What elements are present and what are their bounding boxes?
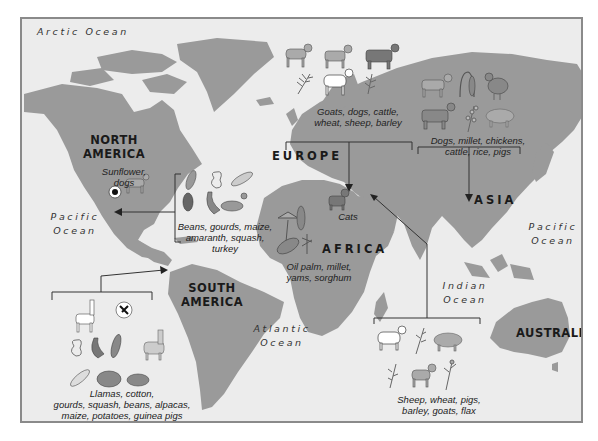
- caption-line: Dogs, millet, chickens,: [418, 135, 538, 146]
- wheat-icon: [297, 74, 313, 94]
- caption-fertile-crescent: Sheep, wheat, pigs, barley, goats, flax: [384, 394, 494, 416]
- caption-south-america: Llamas, cotton, gourds, squash, beans, a…: [42, 388, 202, 421]
- cotton-icon: [116, 302, 132, 318]
- caption-line: Sunflower,: [94, 166, 154, 177]
- cattle-icon: [366, 44, 399, 69]
- amaranth-icon: [183, 193, 193, 211]
- gourd-icon: [71, 340, 81, 356]
- alpaca-icon: [144, 330, 164, 360]
- label-atlantic-ocean: Atlantic Ocean: [244, 322, 320, 350]
- caption-line: gourds, squash, beans, alpacas,: [42, 399, 202, 410]
- label-indian-ocean: Indian Ocean: [430, 279, 500, 307]
- potato-icon: [97, 371, 121, 387]
- turkey-icon: [221, 193, 247, 211]
- label-line: SOUTH: [172, 281, 252, 295]
- flax-icon: [444, 360, 456, 390]
- caption-line: dogs: [94, 177, 154, 188]
- barley-icon: [388, 364, 398, 388]
- label-pacific-ocean-east: Pacific Ocean: [518, 220, 583, 248]
- mesoamerica-icons: [183, 169, 254, 214]
- label-asia: ASIA: [474, 193, 516, 207]
- caption-line: Goats, dogs, cattle,: [298, 106, 418, 117]
- label-line: Atlantic: [244, 322, 320, 336]
- south-america-icons: [68, 300, 164, 389]
- caption-line: wheat, sheep, barley: [298, 117, 418, 128]
- squash-icon: [207, 192, 220, 214]
- caption-asia: Dogs, millet, chickens, cattle, rice, pi…: [418, 135, 538, 157]
- label-line: Pacific: [40, 210, 110, 224]
- llama-icon: [76, 300, 94, 332]
- squash-icon: [92, 338, 104, 358]
- label-africa: AFRICA: [322, 242, 387, 256]
- caption-line: barley, goats, flax: [384, 405, 494, 416]
- maize-icon: [230, 170, 255, 189]
- label-line: Ocean: [518, 234, 583, 248]
- world-map: Arctic Ocean Pacific Ocean Atlantic Ocea…: [20, 17, 583, 423]
- caption-line: Beans, gourds, maize,: [170, 221, 280, 232]
- goat-icon: [286, 44, 312, 67]
- label-north-america: NORTH AMERICA: [74, 133, 154, 161]
- caption-line: amaranth, squash,: [170, 232, 280, 243]
- label-line: AMERICA: [172, 295, 252, 309]
- gourd-icon: [211, 172, 221, 188]
- sheep-icon: [378, 326, 406, 350]
- label-arctic-ocean: Arctic Ocean: [37, 25, 129, 39]
- label-south-america: SOUTH AMERICA: [172, 281, 252, 309]
- label-australia: AUSTRALIA: [516, 326, 583, 340]
- guinea-pig-icon: [127, 374, 149, 386]
- caption-north-america: Sunflower, dogs: [94, 166, 154, 188]
- label-line: Indian: [430, 279, 500, 293]
- goat-icon: [412, 364, 436, 387]
- caption-cats: Cats: [328, 211, 368, 222]
- caption-line: Sheep, wheat, pigs,: [384, 394, 494, 405]
- fertile-crescent-icons: [378, 326, 462, 390]
- wheat-icon: [416, 328, 426, 354]
- caption-europe: Goats, dogs, cattle, wheat, sheep, barle…: [298, 106, 418, 128]
- caption-line: maize, potatoes, guinea pigs: [42, 410, 202, 421]
- caption-line: yams, sorghum: [274, 272, 364, 283]
- caption-line: Llamas, cotton,: [42, 388, 202, 399]
- caption-line: turkey: [170, 243, 280, 254]
- maize-icon: [68, 367, 92, 389]
- label-line: Ocean: [430, 293, 500, 307]
- label-europe: EUROPE: [272, 149, 342, 163]
- dog-icon: [325, 45, 352, 68]
- caption-line: Cats: [328, 211, 368, 222]
- label-line: Ocean: [244, 336, 320, 350]
- pig-icon: [434, 333, 462, 351]
- label-line: Pacific: [518, 220, 583, 234]
- beans-icon: [109, 333, 123, 358]
- label-line: NORTH: [74, 133, 154, 147]
- caption-west-africa: Oil palm, millet, yams, sorghum: [274, 261, 364, 283]
- caption-line: cattle, rice, pigs: [418, 146, 538, 157]
- label-line: Ocean: [40, 224, 110, 238]
- caption-line: Oil palm, millet,: [274, 261, 364, 272]
- label-pacific-ocean-west: Pacific Ocean: [40, 210, 110, 238]
- label-line: AMERICA: [74, 147, 154, 161]
- caption-mesoamerica: Beans, gourds, maize, amaranth, squash, …: [170, 221, 280, 254]
- millet-icon: [297, 206, 305, 230]
